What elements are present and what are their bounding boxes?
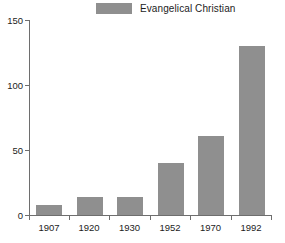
- y-tick-label-100: 100: [7, 81, 23, 90]
- bar-1992: [239, 46, 265, 215]
- bar-1930: [117, 197, 143, 215]
- y-tick-150: [25, 20, 30, 21]
- bar-1970: [198, 136, 224, 215]
- y-tick-label-150-wrap: 150: [0, 16, 23, 25]
- x-tick-0: [29, 215, 30, 220]
- x-tick-4: [190, 215, 191, 220]
- bar-1920: [77, 197, 103, 215]
- x-tick-label-1907: 1907: [29, 222, 69, 233]
- y-tick-label-150: 150: [7, 16, 23, 25]
- x-tick-label-1930: 1930: [109, 222, 150, 233]
- y-tick-100: [25, 85, 30, 86]
- x-tick-2: [109, 215, 110, 220]
- x-tick-6: [271, 215, 272, 220]
- bar-1952: [158, 163, 184, 215]
- x-tick-3: [150, 215, 151, 220]
- y-tick-label-0: 0: [18, 211, 23, 220]
- x-tick-label-1970: 1970: [190, 222, 231, 233]
- y-tick-label-100-wrap: 100: [0, 81, 23, 90]
- x-tick-label-1952: 1952: [150, 222, 190, 233]
- x-tick-5: [231, 215, 232, 220]
- y-tick-label-0-wrap: 0: [0, 211, 23, 220]
- y-tick-50: [25, 150, 30, 151]
- x-tick-label-1920: 1920: [69, 222, 109, 233]
- bar-1907: [36, 205, 62, 215]
- y-axis-line: [29, 20, 30, 216]
- plot-area: 0 50 100 150 1907 1920 1930 19: [0, 0, 285, 243]
- x-tick-label-1992: 1992: [231, 222, 271, 233]
- y-tick-label-50: 50: [12, 146, 23, 155]
- y-tick-label-50-wrap: 50: [0, 146, 23, 155]
- x-tick-1: [69, 215, 70, 220]
- bar-chart: Evangelical Christian 0 50 100 150: [0, 0, 285, 243]
